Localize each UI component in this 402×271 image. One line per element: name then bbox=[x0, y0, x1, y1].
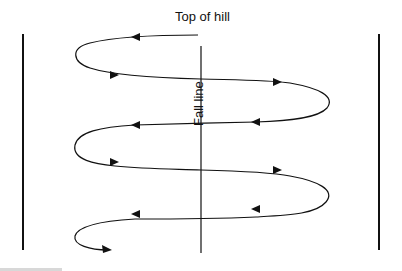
arrow-right-icon bbox=[110, 71, 119, 79]
arrow-left-icon bbox=[131, 33, 140, 41]
arrow-right-icon bbox=[273, 78, 282, 86]
traverse-path bbox=[75, 35, 330, 250]
ski-traverse-diagram bbox=[0, 0, 402, 271]
arrow-left-icon bbox=[251, 118, 260, 126]
arrow-left-icon bbox=[131, 121, 140, 129]
arrow-right-icon bbox=[110, 158, 119, 166]
arrow-right-icon bbox=[273, 166, 282, 174]
fall-line-label: Fall line bbox=[191, 81, 206, 126]
arrow-left-icon bbox=[251, 205, 260, 213]
arrow-right-icon bbox=[102, 245, 112, 253]
top-of-hill-label: Top of hill bbox=[175, 9, 230, 24]
arrow-left-icon bbox=[131, 210, 140, 218]
direction-arrows bbox=[102, 33, 282, 253]
